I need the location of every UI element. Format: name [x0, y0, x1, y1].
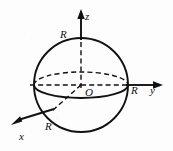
x-radius-label: R [45, 121, 52, 132]
y-axis-label: y [150, 85, 155, 96]
sphere-diagram-canvas [0, 0, 173, 151]
origin-label: O [85, 87, 93, 98]
z-radius-label: R [60, 29, 67, 40]
x-axis-arrowhead [11, 116, 22, 125]
x-axis-label: x [19, 131, 24, 142]
z-axis-label: z [85, 11, 89, 22]
sphere-diagram-figure: z R R y O R x [0, 0, 173, 151]
y-radius-label: R [131, 85, 138, 96]
z-axis-arrowhead [77, 9, 84, 19]
